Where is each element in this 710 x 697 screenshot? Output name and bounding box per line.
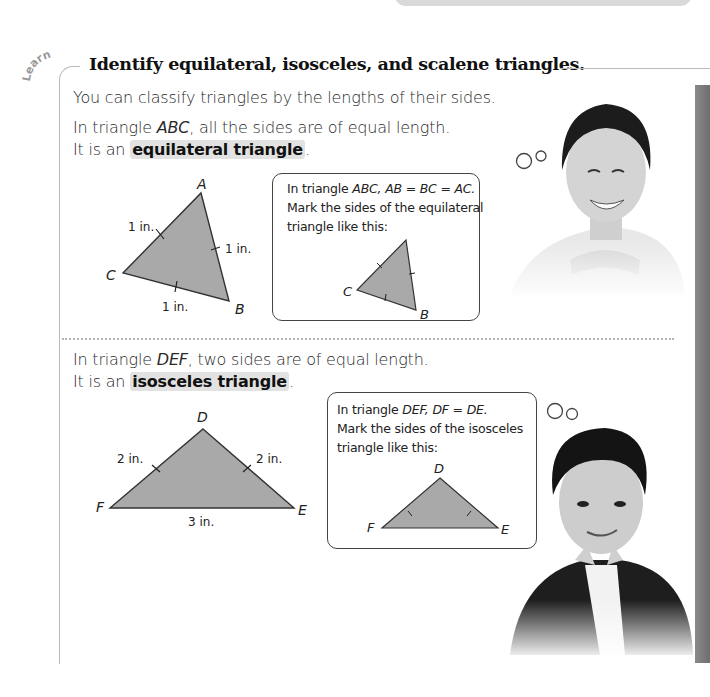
vertex-f-label: F bbox=[96, 499, 105, 515]
title-rule bbox=[560, 68, 710, 69]
side-de-label: 2 in. bbox=[256, 452, 282, 466]
text: Mark the sides of the equilateral bbox=[287, 198, 483, 217]
girl-photo bbox=[510, 100, 695, 300]
triangle-name: DEF bbox=[157, 350, 188, 369]
intro-text: You can classify triangles by the length… bbox=[73, 88, 496, 107]
vertex-b-label: B bbox=[235, 301, 245, 317]
learn-tag-label: Learn bbox=[22, 48, 52, 82]
isosceles-triangle-figure: D E F 2 in. 2 in. 3 in. bbox=[80, 400, 320, 540]
equilateral-mark-example: A B C bbox=[313, 236, 433, 321]
section-separator bbox=[62, 338, 674, 340]
vertex-c-label: C bbox=[343, 284, 353, 299]
vertex-a-label: A bbox=[399, 236, 409, 239]
text: Mark the sides of the isosceles bbox=[337, 419, 523, 438]
isosceles-desc-line2: It is an isosceles triangle. bbox=[73, 372, 294, 391]
side-fe-label: 3 in. bbox=[188, 515, 214, 529]
lesson-title: Identify equilateral, isosceles, and sca… bbox=[89, 54, 585, 74]
frame-left-rule bbox=[59, 79, 60, 664]
text: In triangle bbox=[287, 181, 352, 196]
top-header-bar bbox=[395, 0, 691, 6]
vertex-f-label: F bbox=[367, 520, 375, 535]
equilateral-triangle-figure: A B C 1 in. 1 in. 1 in. bbox=[90, 165, 270, 325]
text: , two sides are of equal length. bbox=[188, 350, 429, 369]
equilateral-desc-line2: It is an equilateral triangle. bbox=[73, 140, 310, 159]
side-ab-label: 1 in. bbox=[225, 242, 251, 256]
vertex-e-label: E bbox=[298, 502, 307, 518]
frame-corner bbox=[59, 66, 80, 87]
text: In triangle bbox=[337, 402, 402, 417]
triangle-name: ABC bbox=[157, 118, 190, 137]
equilateral-desc-line1: In triangle ABC, all the sides are of eq… bbox=[73, 118, 450, 137]
side-cb-label: 1 in. bbox=[162, 300, 188, 314]
triangle-def bbox=[110, 429, 294, 508]
vertex-a-label: A bbox=[196, 176, 207, 192]
text: It is an bbox=[73, 372, 130, 391]
text: triangle like this: bbox=[337, 438, 523, 457]
equation: DEF, DF = DE. bbox=[402, 402, 487, 417]
equilateral-term: equilateral triangle bbox=[130, 140, 305, 159]
isosceles-note-text: In triangle DEF, DF = DE. Mark the sides… bbox=[337, 400, 523, 457]
vertex-c-label: C bbox=[106, 267, 116, 283]
isosceles-term: isosceles triangle bbox=[130, 372, 289, 391]
side-fd-label: 2 in. bbox=[117, 452, 143, 466]
text: In triangle bbox=[73, 118, 157, 137]
equilateral-note-box: In triangle ABC, AB = BC = AC. Mark the … bbox=[272, 173, 480, 321]
boy-photo bbox=[505, 420, 695, 660]
equation: ABC, AB = BC = AC. bbox=[352, 181, 475, 196]
vertex-b-label: B bbox=[420, 307, 429, 321]
text: . bbox=[289, 372, 294, 391]
isosceles-desc-line1: In triangle DEF, two sides are of equal … bbox=[73, 350, 429, 369]
equilateral-note-text: In triangle ABC, AB = BC = AC. Mark the … bbox=[287, 179, 483, 236]
text: It is an bbox=[73, 140, 130, 159]
text: In triangle bbox=[73, 350, 157, 369]
vertex-d-label: D bbox=[434, 461, 444, 476]
text: . bbox=[305, 140, 310, 159]
side-ca-label: 1 in. bbox=[128, 220, 154, 234]
page-edge-bar bbox=[695, 85, 710, 663]
text: , all the sides are of equal length. bbox=[189, 118, 450, 137]
learn-tag-icon: Learn bbox=[22, 48, 62, 84]
isosceles-mark-example: D E F bbox=[348, 461, 528, 541]
svg-text:Learn: Learn bbox=[22, 48, 52, 82]
text: triangle like this: bbox=[287, 217, 483, 236]
vertex-d-label: D bbox=[197, 409, 208, 425]
